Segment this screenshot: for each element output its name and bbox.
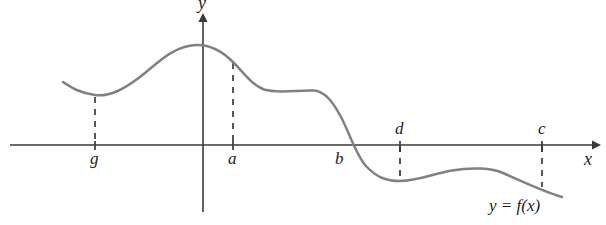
- x-axis: [10, 140, 601, 149]
- x-axis-arrowhead: [592, 140, 601, 149]
- label-b: b: [335, 150, 344, 167]
- label-c: c: [538, 120, 546, 137]
- y-axis-label: y: [198, 0, 206, 12]
- function-graph-figure: g a b d c x y y = f(x): [0, 0, 606, 225]
- label-g: g: [90, 150, 99, 167]
- label-a: a: [228, 150, 237, 167]
- y-axis-arrowhead: [198, 13, 207, 22]
- graph-canvas: [0, 0, 606, 225]
- function-equation-label: y = f(x): [489, 197, 540, 214]
- y-axis: [198, 13, 207, 212]
- label-d: d: [395, 120, 404, 137]
- x-axis-label: x: [584, 150, 592, 168]
- function-curve: [63, 45, 562, 197]
